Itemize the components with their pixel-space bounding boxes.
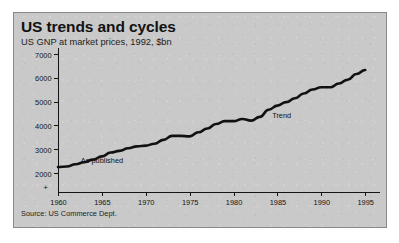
y-axis-tick-label: 4000	[35, 121, 51, 130]
chart-annotation-label: Trend	[272, 111, 291, 120]
x-axis-tick-label: 1960	[50, 198, 66, 207]
chart-annotation-label: As published	[81, 156, 123, 165]
x-axis-tick-label: 1995	[357, 198, 373, 207]
y-axis-tick-label: 2000	[35, 169, 51, 178]
x-axis-tick-label: 1975	[182, 198, 198, 207]
x-axis-tick-label: 1990	[314, 198, 330, 207]
x-axis-tick-label: 1985	[270, 198, 286, 207]
plot-svg	[14, 13, 387, 228]
x-axis-tick-label: 1980	[226, 198, 242, 207]
y-axis-tick-label: 3000	[35, 145, 51, 154]
x-axis-tick-label: 1965	[94, 198, 110, 207]
y-axis-tick-label: 5000	[35, 98, 51, 107]
x-axis-tick-label: 1970	[138, 198, 154, 207]
y-axis-tick-label: 7000	[35, 50, 51, 59]
y-axis-tick-label: 6000	[35, 74, 51, 83]
chart-figure-panel: US trends and cycles US GNP at market pr…	[13, 12, 387, 228]
chart-screenshot: US trends and cycles US GNP at market pr…	[0, 0, 399, 243]
plot-area: 200030004000500060007000+196019651970197…	[14, 13, 387, 228]
axis-break-marker: +	[43, 183, 48, 192]
data-series-line	[58, 70, 365, 167]
